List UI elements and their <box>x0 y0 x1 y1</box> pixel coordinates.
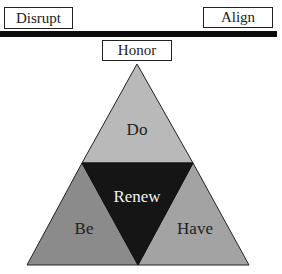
do-triangle <box>82 64 193 163</box>
triangle-diagram: Do Renew Be Have <box>0 0 282 274</box>
do-label: Do <box>127 120 148 139</box>
be-label: Be <box>75 219 94 238</box>
have-label: Have <box>177 219 213 238</box>
renew-label: Renew <box>113 187 161 206</box>
